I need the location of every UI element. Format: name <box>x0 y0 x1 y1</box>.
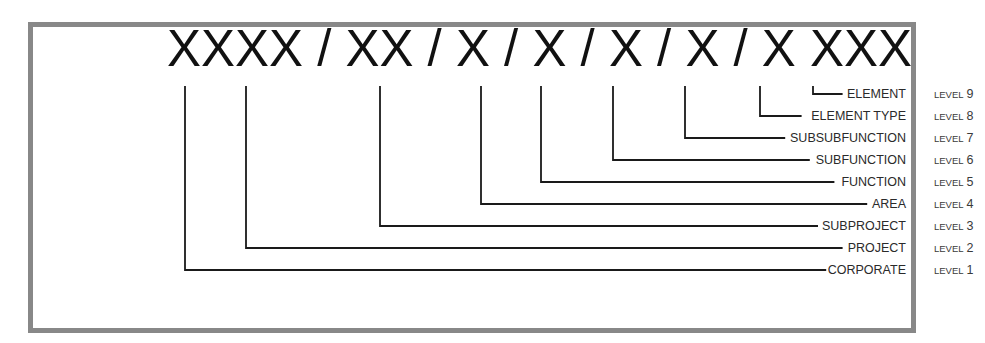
level-5-label: LEVEL5 <box>934 175 974 189</box>
level-8-label: LEVEL8 <box>934 109 974 123</box>
level-4-label: LEVEL4 <box>934 197 974 211</box>
code-format-string: XXXX / XX / X / X / X / X / X XXX <box>167 20 912 77</box>
label-project: PROJECT <box>848 241 907 255</box>
label-subfunction: SUBFUNCTION <box>816 153 906 167</box>
label-function: FUNCTION <box>841 175 906 189</box>
label-corporate: CORPORATE <box>828 263 906 277</box>
level-6-label: LEVEL6 <box>934 153 974 167</box>
label-subsubfunction: SUBSUBFUNCTION <box>790 131 906 145</box>
label-element-type: ELEMENT TYPE <box>811 109 906 123</box>
level-9-label: LEVEL9 <box>934 87 974 101</box>
label-subproject: SUBPROJECT <box>822 219 906 233</box>
level-1-label: LEVEL1 <box>934 263 974 277</box>
label-element: ELEMENT <box>847 87 906 101</box>
level-3-label: LEVEL3 <box>934 219 974 233</box>
coding-hierarchy-diagram: XXXX / XX / X / X / X / X / X XXX ELEMEN… <box>0 0 985 343</box>
label-area: AREA <box>872 197 907 211</box>
level-2-label: LEVEL2 <box>934 241 974 255</box>
level-7-label: LEVEL7 <box>934 131 974 145</box>
level-labels: LEVEL9LEVEL8LEVEL7LEVEL6LEVEL5LEVEL4LEVE… <box>934 87 974 277</box>
